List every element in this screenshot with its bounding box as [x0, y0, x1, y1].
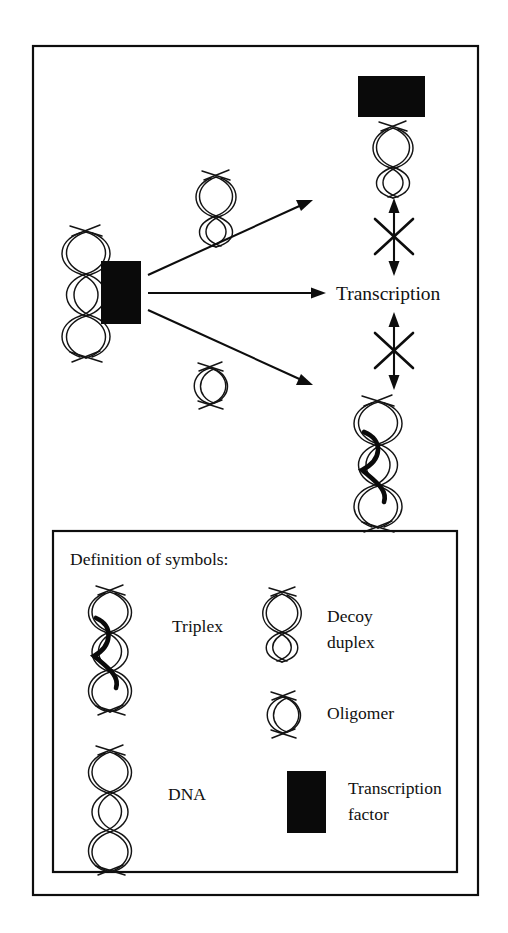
decoy-duplex-complex: [373, 121, 413, 198]
diagram-canvas: Transcription Definition of symb: [0, 0, 508, 933]
transcription-factor-box-bound: [101, 261, 141, 324]
transcription-factor-box-decoy: [358, 76, 425, 117]
legend-border: [53, 531, 457, 872]
helix-end-ticks: [70, 225, 102, 362]
decoy-duplex-icon: [263, 587, 302, 662]
legend-item-dna: DNA: [89, 745, 207, 875]
transcription-label: Transcription: [336, 283, 441, 304]
legend-item-oligomer: Oligomer: [267, 691, 394, 738]
triplex-helix-icon: [89, 585, 132, 715]
figure-root: Transcription Definition of symb: [0, 0, 508, 933]
arrow-to-decoy-complex: [148, 200, 313, 275]
legend-label-tf-line2: factor: [348, 804, 389, 824]
legend-label-oligomer: Oligomer: [327, 703, 394, 723]
legend-title: Definition of symbols:: [70, 549, 228, 569]
oligomer-icon: [267, 691, 300, 738]
dna-helix-icon: [89, 745, 132, 875]
legend-label-decoy-line1: Decoy: [327, 606, 373, 626]
triplex-complex: [354, 395, 402, 532]
arrow-to-triplex: [148, 310, 313, 385]
blocked-transcription-lower: [375, 312, 413, 390]
blocked-transcription-upper: [375, 198, 413, 276]
transcription-factor-icon: [287, 771, 326, 833]
arrow-to-transcription: [148, 288, 326, 299]
legend-item-triplex: Triplex: [89, 585, 224, 715]
figure-outer-border: [33, 46, 478, 895]
legend-item-transcription-factor: Transcription factor: [287, 771, 442, 833]
legend-label-dna: DNA: [168, 784, 206, 804]
legend-label-tf-line1: Transcription: [348, 778, 442, 798]
decoy-duplex-reagent: [196, 170, 236, 247]
legend-label-triplex: Triplex: [172, 616, 223, 636]
legend-label-decoy-line2: duplex: [327, 632, 375, 652]
legend-item-decoy-duplex: Decoy duplex: [263, 587, 375, 662]
oligomer-reagent: [194, 362, 227, 409]
